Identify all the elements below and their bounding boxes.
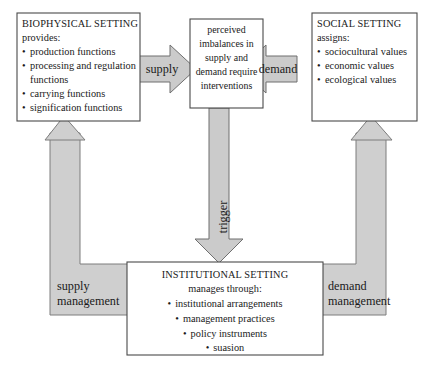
perceived-line-4: interventions — [201, 80, 253, 91]
institutional-bullet-text-2: policy instruments — [191, 328, 267, 339]
institutional-setting-node: INSTITUTIONAL SETTING manages through: •… — [127, 262, 323, 355]
biophysical-bullet-marker-0: • — [22, 46, 26, 57]
social-bullet-marker-0: • — [317, 46, 321, 57]
biophysical-bullet-2: carrying functions — [30, 88, 105, 99]
social-bullet-1: economic values — [325, 60, 394, 71]
social-setting-node: SOCIAL SETTING assigns: • sociocultural … — [312, 13, 417, 121]
institutional-bullet-text-3: suasion — [213, 342, 244, 353]
perceived-line-0: perceived — [207, 24, 245, 35]
perceived-line-3: demand require — [196, 66, 258, 77]
biophysical-bullet-marker-1: • — [22, 60, 26, 71]
demand-management-label-line1: demand — [328, 279, 367, 293]
biophysical-bullet-1-cont: functions — [30, 74, 68, 85]
institutional-setting-heading: INSTITUTIONAL SETTING — [162, 269, 289, 280]
supply-management-label-line1: supply — [57, 279, 90, 293]
institutional-bullet-text-0: institutional arrangements — [175, 298, 282, 309]
trigger-connector — [195, 108, 243, 263]
social-setting-subheading: assigns: — [317, 32, 350, 43]
biophysical-bullet-3: signification functions — [30, 102, 122, 113]
social-setting-heading: SOCIAL SETTING — [317, 18, 402, 29]
diagram-canvas: BIOPHYSICAL SETTING provides: • producti… — [0, 0, 436, 372]
social-bullet-2: ecological values — [325, 74, 396, 85]
biophysical-setting-node: BIOPHYSICAL SETTING provides: • producti… — [17, 13, 140, 121]
biophysical-bullet-marker-3: • — [22, 102, 26, 113]
biophysical-setting-heading: BIOPHYSICAL SETTING — [22, 18, 138, 29]
trigger-arrow — [195, 108, 243, 263]
institutional-bullet-marker-0: • — [168, 298, 172, 309]
supply-arrow-label: supply — [146, 62, 179, 76]
supply-management-label-line2: management — [57, 294, 120, 308]
institutional-bullet-0: •institutional arrangements — [168, 298, 283, 309]
biophysical-bullet-0: production functions — [30, 46, 116, 57]
perceived-line-1: imbalances in — [199, 38, 254, 49]
institutional-bullet-marker-3: • — [206, 342, 210, 353]
social-bullet-marker-1: • — [317, 60, 321, 71]
perceived-line-2: supply and — [205, 52, 248, 63]
framework-diagram: BIOPHYSICAL SETTING provides: • producti… — [0, 0, 436, 372]
institutional-bullet-1: •management practices — [175, 313, 274, 324]
social-bullet-0: sociocultural values — [325, 46, 407, 57]
institutional-bullet-text-1: management practices — [183, 313, 275, 324]
trigger-arrow-label: trigger — [216, 201, 230, 234]
institutional-setting-subheading: manages through: — [188, 283, 262, 294]
demand-arrow-label: demand — [259, 62, 298, 76]
biophysical-setting-subheading: provides: — [22, 32, 60, 43]
biophysical-bullet-marker-2: • — [22, 88, 26, 99]
social-bullet-marker-2: • — [317, 74, 321, 85]
institutional-bullet-marker-2: • — [183, 328, 187, 339]
demand-management-label-line2: management — [328, 294, 391, 308]
institutional-bullet-marker-1: • — [175, 313, 179, 324]
perceived-imbalances-node: perceived imbalances in supply and deman… — [190, 19, 263, 108]
biophysical-bullet-1: processing and regulation — [30, 60, 136, 71]
institutional-bullet-2: •policy instruments — [183, 328, 267, 339]
